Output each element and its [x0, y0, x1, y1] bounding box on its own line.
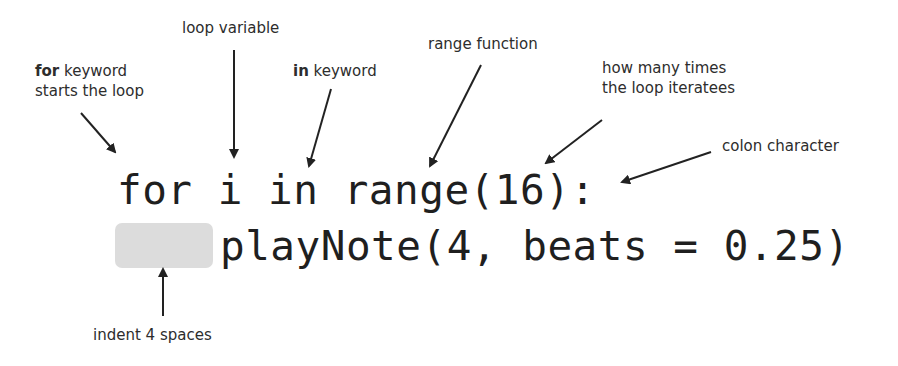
colon-arrow-icon: [622, 152, 711, 182]
range-arrow-icon: [430, 65, 481, 166]
for-arrow-icon: [81, 113, 115, 152]
iterations-arrow-icon: [546, 120, 602, 163]
in-arrow-icon: [309, 89, 331, 166]
annotation-arrows: [0, 0, 898, 366]
